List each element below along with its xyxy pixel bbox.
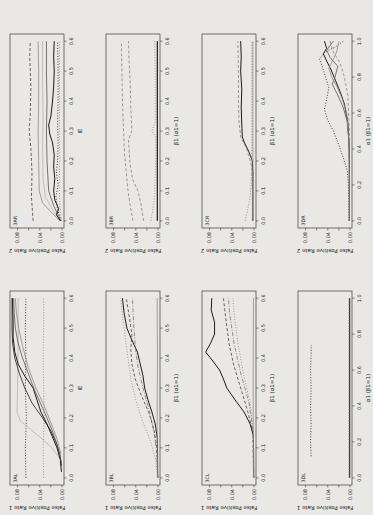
3AR-series-5-solid-black (49, 41, 61, 221)
3BR-series-3-dotted-gray (151, 41, 156, 221)
3BR-x-tick-label: 0.3 (164, 127, 170, 135)
3CR-y-tick-label: 0.04 (229, 232, 235, 243)
3BR-x-tick-label: 0.2 (164, 157, 170, 165)
3CL-plot-box (202, 291, 256, 485)
3AL-series-2-dotted-gray (43, 298, 44, 478)
3CL-x-tick-label: 0.5 (260, 324, 266, 332)
3DL-plot-box (298, 291, 352, 485)
3CL-series-4-dotted-gray (233, 298, 254, 478)
3AR-x-tick-label: 0.0 (68, 217, 74, 225)
3BR-x-axis: 0.00.10.20.30.40.50.6β1 (α1=1) (160, 37, 180, 225)
3DR-x-tick-label: 0.8 (356, 73, 362, 81)
3DR-x-tick-label: 0.2 (356, 181, 362, 189)
3CL-panel-label: 3CL (205, 473, 210, 482)
3BL-x-tick-label: 0.0 (164, 474, 170, 482)
3AR-y-axis: 0.000.040.08False Positive Rate 2 (9, 228, 65, 254)
3AR-series-3-solid-lgray (43, 41, 61, 221)
panel-3DL: 3DL0.00.20.40.60.81.0α1 (β1=1)0.000.040.… (297, 291, 372, 511)
3CR-x-axis: 0.00.10.20.30.40.50.6β1 (α1=1) (256, 37, 276, 225)
3DL-y-tick-label: 0.00 (347, 489, 353, 500)
3AL-y-tick-label: 0.04 (37, 489, 43, 500)
3BL-y-axis-label: False Positive Rate 1 (105, 505, 161, 511)
3CR-plot-box (202, 34, 256, 228)
3AR-x-axis: 0.00.10.20.30.40.50.6IE (64, 37, 83, 225)
3CR-y-tick-label: 0.00 (251, 232, 257, 243)
3BL-y-tick-label: 0.08 (110, 489, 116, 500)
3DR-x-tick-label: 0.4 (356, 145, 362, 153)
3DL-y-axis: 0.000.040.08False Positive Rate 1 (297, 485, 353, 511)
3DR-y-tick-label: 0.08 (302, 232, 308, 243)
3CL-y-tick-label: 0.04 (229, 489, 235, 500)
3DR-y-axis-label: False Positive Rate 2 (297, 248, 353, 254)
3DL-series-1-dotted-black (311, 345, 312, 456)
scanned-figure-page: { "page": { "background": "#f7f6f3", "ax… (0, 0, 373, 515)
3DR-plot-box (298, 34, 352, 228)
3CL-x-tick-label: 0.3 (260, 384, 266, 392)
3DL-x-axis: 0.00.20.40.60.81.0α1 (β1=1) (352, 294, 372, 482)
panel-3AL: 3AL0.00.10.20.30.40.50.6IE0.000.040.08Fa… (9, 291, 83, 511)
3AL-series-1-dotted-black (25, 298, 26, 478)
3CR-x-tick-label: 0.4 (260, 97, 266, 105)
3DL-x-tick-label: 0.6 (356, 366, 362, 374)
3BL-plot-box (106, 291, 160, 485)
3AR-y-tick-label: 0.00 (59, 232, 65, 243)
3DR-y-axis: 0.000.040.08False Positive Rate 2 (297, 228, 353, 254)
3DR-y-tick-label: 0.04 (325, 232, 331, 243)
3CL-series-1-solid-black (206, 298, 254, 478)
3BL-x-tick-label: 0.3 (164, 384, 170, 392)
3AL-x-axis: 0.00.10.20.30.40.50.6IE (64, 294, 83, 482)
3AL-x-tick-label: 0.6 (68, 294, 74, 302)
3AL-y-axis-label: False Positive Rate 1 (9, 505, 65, 511)
3BR-x-tick-label: 0.4 (164, 97, 170, 105)
3BL-x-tick-label: 0.4 (164, 354, 170, 362)
3BR-panel-label: 3BR (109, 215, 114, 225)
3AR-series-7-dotted-gray (59, 41, 61, 221)
panel-3DR: 3DR0.00.20.40.60.81.0α1 (β1=1)0.000.040.… (297, 34, 372, 254)
3BR-x-tick-label: 0.5 (164, 67, 170, 75)
3CR-x-tick-label: 0.3 (260, 127, 266, 135)
3AL-series-7-solid-gray (15, 298, 61, 454)
3CL-series-2-dashed-black (223, 298, 253, 478)
3DL-y-tick-label: 0.08 (302, 489, 308, 500)
panel-3BL: 3BL0.00.10.20.30.40.50.6β1 (α1=1)0.000.0… (105, 291, 180, 511)
3CL-y-tick-label: 0.00 (251, 489, 257, 500)
3CR-x-tick-label: 0.5 (260, 67, 266, 75)
3CR-y-axis-label: False Positive Rate 2 (201, 248, 257, 254)
3AR-y-tick-label: 0.08 (14, 232, 20, 243)
3BR-x-tick-label: 0.0 (164, 217, 170, 225)
3BL-x-tick-label: 0.6 (164, 294, 170, 302)
3DR-y-tick-label: 0.00 (347, 232, 353, 243)
3DR-x-axis: 0.00.20.40.60.81.0α1 (β1=1) (352, 37, 372, 225)
3CR-panel-label: 3CR (205, 215, 210, 225)
3DL-y-axis-label: False Positive Rate 1 (297, 505, 353, 511)
3AR-x-axis-label: IE (77, 128, 83, 134)
3AR-y-axis-label: False Positive Rate 2 (9, 248, 65, 254)
3CL-x-axis-label: β1 (α1=1) (269, 374, 276, 402)
3CR-series-1-solid-black (241, 41, 253, 221)
3AL-x-tick-label: 0.0 (68, 474, 74, 482)
3DL-x-tick-label: 1.0 (356, 294, 362, 302)
3AL-y-axis: 0.000.040.08False Positive Rate 1 (9, 485, 65, 511)
3BR-y-tick-label: 0.04 (133, 232, 139, 243)
3AL-x-axis-label: IE (77, 385, 83, 391)
3CL-x-tick-label: 0.4 (260, 354, 266, 362)
panel-3CL: 3CL0.00.10.20.30.40.50.6β1 (α1=1)0.000.0… (201, 291, 276, 511)
3AL-y-tick-label: 0.00 (59, 489, 65, 500)
3AL-x-tick-label: 0.3 (68, 384, 74, 392)
3DR-series-4-solid-gray (329, 41, 349, 221)
3AR-x-tick-label: 0.3 (68, 127, 74, 135)
3DL-x-tick-label: 0.8 (356, 330, 362, 338)
3CR-x-tick-label: 0.1 (260, 187, 266, 195)
3AL-panel-label: 3AL (13, 473, 18, 482)
3AL-series-4-solid-black (13, 298, 62, 472)
3CL-y-axis: 0.000.040.08False Positive Rate 1 (201, 485, 257, 511)
3DR-panel-label: 3DR (301, 215, 306, 226)
3CL-y-tick-label: 0.08 (206, 489, 212, 500)
3DL-y-tick-label: 0.04 (325, 489, 331, 500)
3DL-x-tick-label: 0.4 (356, 402, 362, 410)
3BR-series-1-dashed-gray (121, 41, 133, 221)
3AR-x-tick-label: 0.5 (68, 67, 74, 75)
3BR-y-axis-label: False Positive Rate 2 (105, 248, 161, 254)
3CL-series-3-dotdash-gray (228, 298, 253, 478)
3DL-x-axis-label: α1 (β1=1) (365, 374, 372, 402)
